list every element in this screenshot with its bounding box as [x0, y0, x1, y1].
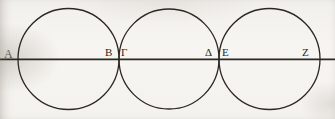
- point-label-zeta: Ζ: [302, 47, 309, 58]
- point-label-epsilon: Ε: [222, 47, 229, 58]
- point-label-gamma: Γ: [121, 47, 127, 58]
- point-label-beta: Β: [105, 47, 112, 58]
- figure-canvas: [0, 0, 335, 119]
- point-label-alpha: Α: [4, 48, 13, 60]
- geometry-figure: Α Β Γ Δ Ε Ζ: [0, 0, 335, 119]
- point-label-delta: Δ: [205, 47, 212, 58]
